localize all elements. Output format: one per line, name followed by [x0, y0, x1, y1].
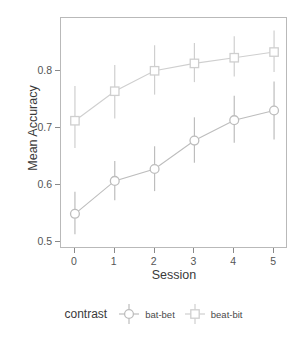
- x-axis-tick-mark: [233, 248, 234, 253]
- plot-series-layer: [61, 18, 287, 248]
- chart-figure: Mean Accuracy 0.50.60.70.8 012345 Sessio…: [0, 0, 307, 341]
- plot-panel: [60, 17, 287, 248]
- legend-title: contrast: [65, 307, 108, 321]
- legend-square-icon: [184, 303, 206, 325]
- chart-legend: contrast bat-betbeat-bit: [0, 300, 307, 328]
- series-bat-bet: [71, 82, 279, 235]
- y-axis-tick-label: 0.7: [22, 121, 52, 133]
- x-axis-tick-label: 3: [181, 255, 205, 267]
- x-axis-tick-label: 1: [102, 255, 126, 267]
- legend-circle-icon: [118, 303, 140, 325]
- x-axis-tick-mark: [273, 248, 274, 253]
- legend-item-beat-bit[interactable]: beat-bit: [184, 303, 243, 325]
- data-point-square: [270, 48, 278, 56]
- data-point-circle: [71, 209, 80, 218]
- y-axis-tick-label: 0.6: [22, 178, 52, 190]
- data-point-circle: [270, 106, 279, 115]
- data-point-circle: [110, 176, 119, 185]
- x-axis-title: Session: [60, 268, 288, 282]
- series-beat-bit: [71, 30, 279, 147]
- data-point-circle: [190, 136, 199, 145]
- x-axis-tick-label: 5: [261, 255, 285, 267]
- legend-item-bat-bet[interactable]: bat-bet: [118, 303, 175, 325]
- x-axis-tick-mark: [154, 248, 155, 253]
- legend-label: bat-bet: [145, 309, 175, 320]
- y-axis-tick-label: 0.8: [22, 64, 52, 76]
- x-axis-tick-label: 0: [62, 255, 86, 267]
- legend-label: beat-bit: [211, 309, 243, 320]
- data-point-square: [190, 59, 198, 67]
- data-point-circle: [150, 165, 159, 174]
- y-axis-tick-label: 0.5: [22, 235, 52, 247]
- y-axis-tick-labels: 0.50.60.70.8: [22, 0, 52, 341]
- data-point-square: [230, 54, 238, 62]
- x-axis-tick-mark: [74, 248, 75, 253]
- data-point-square: [150, 67, 158, 75]
- series-line: [75, 52, 274, 121]
- data-point-square: [111, 87, 119, 95]
- data-point-circle: [230, 116, 239, 125]
- data-point-square: [71, 117, 79, 125]
- x-axis-tick-mark: [193, 248, 194, 253]
- series-line: [75, 111, 274, 214]
- x-axis-tick-label: 4: [221, 255, 245, 267]
- x-axis-tick-mark: [114, 248, 115, 253]
- x-axis-tick-label: 2: [142, 255, 166, 267]
